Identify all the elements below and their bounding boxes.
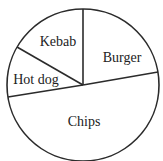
slice-label-hot-dog: Hot dog (13, 72, 59, 87)
slice-label-chips: Chips (68, 114, 101, 129)
pie-chart: Kebab Burger Hot dog Chips (0, 0, 163, 161)
slice-label-burger: Burger (103, 50, 142, 65)
pie-chart-svg: Kebab Burger Hot dog Chips (0, 0, 163, 161)
slice-label-kebab: Kebab (40, 34, 77, 49)
